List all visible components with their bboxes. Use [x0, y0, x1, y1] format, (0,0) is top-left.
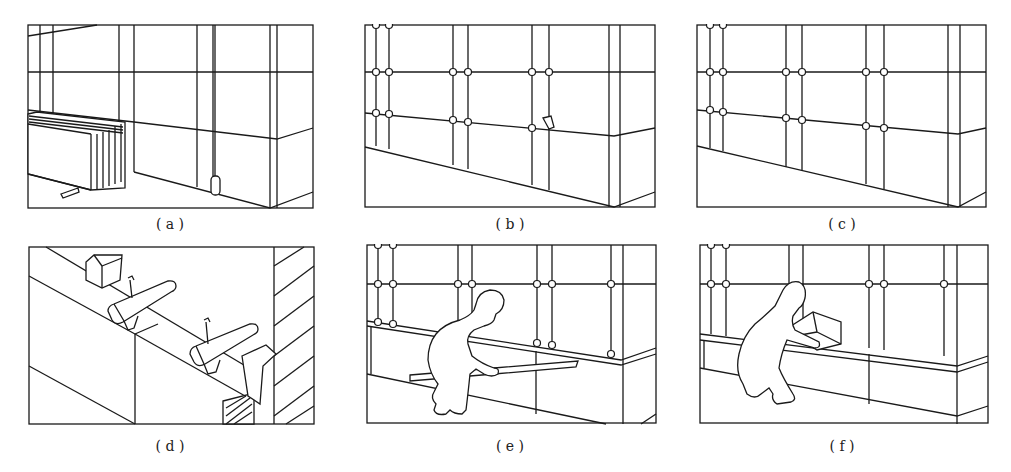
worker-silhouette	[428, 290, 504, 415]
panel-f	[699, 244, 991, 426]
panel-a	[27, 24, 315, 210]
panel-d-drawing	[28, 246, 316, 426]
panel-e	[366, 244, 658, 426]
anchor-points	[373, 24, 553, 132]
panel-d	[28, 246, 316, 426]
anchor-points	[707, 24, 888, 132]
panel-e-drawing	[366, 244, 658, 426]
caption-e: ( e )	[480, 438, 540, 454]
caption-c: ( c )	[812, 216, 872, 232]
panel-b	[364, 24, 656, 210]
caption-b: ( b )	[480, 216, 540, 232]
panel-c-drawing	[696, 24, 988, 210]
caption-f: ( f )	[812, 438, 872, 454]
panel-a-drawing	[27, 24, 315, 210]
caption-d: ( d )	[140, 438, 200, 454]
panel-c	[696, 24, 988, 210]
panel-f-drawing	[699, 244, 991, 426]
anchor-points	[708, 244, 948, 288]
worker-silhouette	[738, 282, 820, 404]
clamp-left	[108, 276, 176, 330]
caption-a: ( a )	[140, 216, 200, 232]
panel-b-drawing	[364, 24, 656, 210]
